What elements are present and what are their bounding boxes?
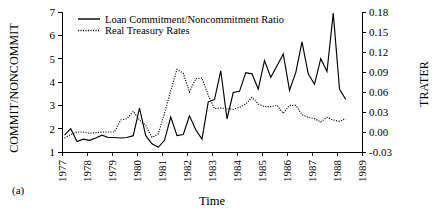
x-tick-label: 1981: [156, 160, 168, 182]
x-tick-label: 1978: [81, 160, 93, 183]
y-tick-label: 1: [50, 146, 56, 158]
x-axis-tick-labels: 1977197819791980198119821983198419851986…: [56, 160, 368, 183]
line-chart-canvas: 1234567 -0.030.000.030.060.090.120.150.1…: [0, 0, 438, 211]
x-axis-title: Time: [199, 194, 225, 208]
y2-tick-label: 0.03: [369, 106, 389, 118]
y2-tick-label: 0.12: [369, 46, 388, 58]
x-tick-label: 1977: [56, 160, 68, 183]
y2-tick-label: -0.03: [369, 146, 392, 158]
x-tick-label: 1985: [256, 160, 268, 183]
x-tick-label: 1986: [281, 160, 293, 183]
series-line-2: [65, 69, 346, 138]
x-tick-label: 1979: [106, 160, 118, 183]
y-tick-label: 5: [50, 53, 56, 65]
y2-tick-label: 0.09: [369, 66, 389, 78]
x-tick-label: 1987: [306, 160, 318, 183]
x-tick-label: 1988: [331, 160, 343, 183]
y-tick-label: 7: [50, 6, 56, 18]
legend-label: Real Treasury Rates: [105, 25, 190, 36]
y2-axis-title: TRATER: [417, 61, 431, 107]
y-tick-label: 4: [50, 76, 56, 88]
chart-figure: 1234567 -0.030.000.030.060.090.120.150.1…: [0, 0, 438, 211]
y2-axis-tick-labels: -0.030.000.030.060.090.120.150.18: [369, 6, 392, 158]
panel-label: (a): [12, 184, 25, 197]
x-tick-label: 1984: [231, 160, 243, 183]
y-tick-label: 6: [50, 29, 56, 41]
y2-tick-label: 0.06: [369, 86, 389, 98]
y2-tick-label: 0.15: [369, 26, 389, 38]
y-tick-label: 2: [50, 123, 56, 135]
x-tick-label: 1982: [181, 160, 193, 182]
y2-tick-label: 0.18: [369, 6, 389, 18]
x-tick-label: 1983: [206, 160, 218, 183]
y-tick-label: 3: [50, 99, 56, 111]
chart-legend: Loan Commitment/Noncommitment RatioReal …: [78, 14, 284, 37]
legend-label: Loan Commitment/Noncommitment Ratio: [105, 14, 284, 25]
x-tick-label: 1989: [356, 160, 368, 183]
y2-tick-label: 0.00: [369, 126, 389, 138]
y-axis-tick-labels: 1234567: [50, 6, 56, 158]
x-tick-label: 1980: [131, 160, 143, 183]
y-axis-title: COMMIT/NONCOMMIT: [7, 23, 21, 153]
